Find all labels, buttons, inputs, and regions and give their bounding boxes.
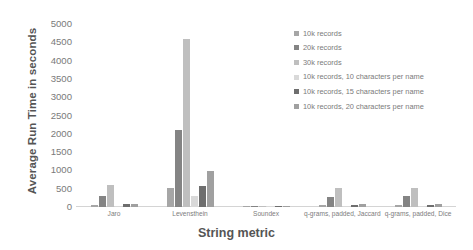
bar [107,185,114,207]
y-axis-tick: 500 [28,184,72,194]
y-axis-tick: 2500 [28,111,72,121]
legend-label: 20k records [303,44,342,51]
bar [395,205,402,207]
y-axis-tick: 3500 [28,74,72,84]
legend-swatch-icon [294,75,299,80]
y-axis-tick: 1000 [28,166,72,176]
y-axis-tick-labels: 5000450040003500300025002000150010005000 [28,0,72,250]
bar [207,171,214,207]
bar [335,188,342,207]
bar [319,205,326,207]
x-axis-tick: Soundex [228,210,304,217]
y-axis-tick: 4000 [28,56,72,66]
bar [183,39,190,207]
bar [175,130,182,207]
x-axis-tick: q-grams, padded, Dice [380,210,456,217]
bar [199,186,206,207]
bar-group [152,24,228,207]
legend-label: 30k records [303,59,342,66]
y-axis-tick: 4500 [28,38,72,48]
legend-label: 10k records, 10 characters per name [303,73,424,80]
bar [435,204,442,207]
legend-item[interactable]: 20k records [294,41,473,56]
bar [419,206,426,207]
x-axis-title: String metric [0,226,473,240]
legend-label: 10k records, 15 characters per name [303,88,424,95]
bar [403,196,410,207]
y-axis-tick: 3000 [28,92,72,102]
bar [115,206,122,207]
x-axis-tick: q-grams, padded, Jaccard [304,210,380,217]
bar [267,206,274,207]
x-axis-tick-labels: JaroLevenstheinSoundexq-grams, padded, J… [76,210,456,224]
bar [327,197,334,207]
bar [243,206,250,207]
bar [91,205,98,207]
legend-swatch-icon [294,89,299,94]
bar [123,204,130,207]
bar [259,206,266,207]
bar [427,205,434,207]
bar-group [76,24,152,207]
legend-item[interactable]: 10k records, 15 characters per name [294,84,473,99]
legend-swatch-icon [294,45,299,50]
bar [359,204,366,207]
bar [283,206,290,207]
x-axis-tick: Jaro [76,210,152,217]
legend-label: 10k records [303,30,342,37]
legend-swatch-icon [294,31,299,36]
bar [99,196,106,207]
bar [251,206,258,207]
bar [167,188,174,207]
legend-item[interactable]: 10k records, 10 characters per name [294,70,473,85]
legend-swatch-icon [294,60,299,65]
legend-item[interactable]: 30k records [294,55,473,70]
legend-item[interactable]: 10k records [294,26,473,41]
y-axis-tick: 1500 [28,147,72,157]
bar [131,204,138,207]
x-axis-tick: Levensthein [152,210,228,217]
legend-label: 10k records, 20 characters per name [303,103,424,110]
bar [275,206,282,207]
legend-item[interactable]: 10k records, 20 characters per name [294,99,473,114]
bar [191,196,198,207]
legend: 10k records20k records30k records10k rec… [294,26,473,114]
y-axis-tick: 5000 [28,19,72,29]
bar [351,205,358,207]
legend-swatch-icon [294,104,299,109]
bar-chart: Average Run Time in seconds 500045004000… [0,0,473,250]
bar [411,188,418,207]
bar [343,206,350,207]
y-axis-tick: 0 [28,202,72,212]
bar-group [228,24,304,207]
y-axis-tick: 2000 [28,129,72,139]
